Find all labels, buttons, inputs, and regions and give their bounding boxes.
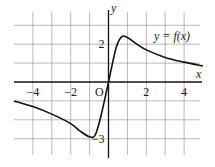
y-axis-label: y bbox=[110, 1, 117, 15]
origin-label: O bbox=[95, 85, 104, 99]
curve-label: y = f(x) bbox=[153, 29, 190, 43]
x-tick-label: 4 bbox=[181, 85, 187, 99]
y-tick-label: 2 bbox=[99, 37, 105, 51]
x-tick-label: −4 bbox=[27, 85, 40, 99]
x-tick-label: −2 bbox=[64, 85, 77, 99]
y-tick-label: −3 bbox=[92, 132, 105, 146]
x-tick-label: 2 bbox=[143, 85, 149, 99]
function-graph: −4−2242−3 x y O y = f(x) bbox=[0, 0, 215, 167]
x-axis-label: x bbox=[195, 67, 202, 81]
